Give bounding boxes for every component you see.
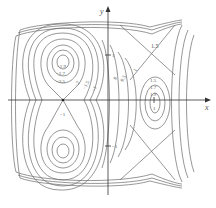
contour-label-m15: −1.5	[82, 80, 91, 91]
right-well-contours	[140, 25, 194, 182]
contour-label-m25: −2.5	[56, 79, 66, 84]
y-axis-label: y	[99, 7, 104, 16]
tick-label-x1: 1	[153, 106, 156, 111]
contour-label-m1: −1	[91, 85, 98, 93]
y-axis-arrow-icon	[106, 6, 111, 12]
contour-label-m29: −2.9	[57, 64, 67, 69]
saddle-point	[62, 99, 65, 102]
contour-label-m2: −2	[74, 80, 81, 88]
x-axis-arrow-icon	[205, 98, 211, 103]
contour-label-17: 1.7	[150, 85, 157, 90]
contour-label-15: 1.5	[150, 78, 157, 83]
contour-label-15-top: 1.5	[151, 43, 159, 49]
tick-label-xm1: −1	[60, 112, 66, 117]
lower-left-well-contours	[41, 100, 85, 173]
tick-label-ym1: −1	[112, 144, 118, 149]
contour-label-19: 1.9	[150, 92, 157, 97]
contour-label-1: 1	[133, 67, 139, 72]
contour-label-m27: −2.7	[56, 71, 66, 76]
x-axis-label: x	[204, 103, 209, 112]
contour-plot: y x −2.9 −2.7 −2.5 −2 −1.5 −1 0 0.5 1 1.…	[0, 0, 216, 208]
middle-contours	[102, 40, 136, 168]
upper-left-well-contours	[41, 39, 85, 100]
